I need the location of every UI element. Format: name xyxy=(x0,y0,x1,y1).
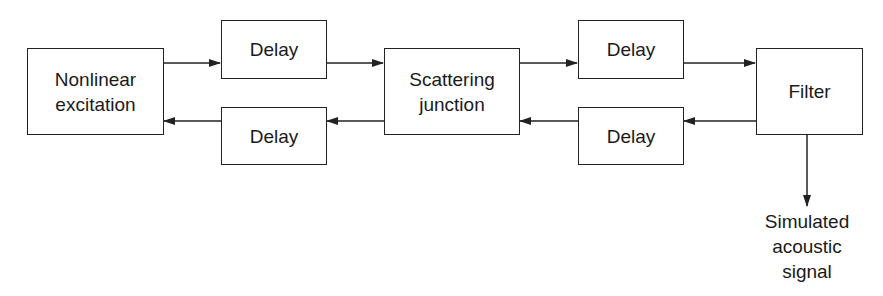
delay-block-bottom-left: Delay xyxy=(221,107,327,165)
block-label: Delay xyxy=(607,124,656,149)
filter-block: Filter xyxy=(756,48,863,135)
block-label: junction xyxy=(409,92,495,117)
output-label-line: acoustic xyxy=(747,234,867,259)
block-label: excitation xyxy=(55,92,136,117)
scattering-junction-block: Scattering junction xyxy=(384,48,520,135)
block-label: Scattering xyxy=(409,67,495,92)
block-label: Delay xyxy=(250,37,299,62)
delay-block-top-left: Delay xyxy=(221,20,327,79)
block-label: Filter xyxy=(788,79,830,104)
block-label: Delay xyxy=(250,124,299,149)
output-label-line: signal xyxy=(747,259,867,284)
delay-block-bottom-right: Delay xyxy=(578,107,684,165)
delay-block-top-right: Delay xyxy=(578,20,684,79)
nonlinear-excitation-block: Nonlinear excitation xyxy=(27,48,164,135)
output-label-line: Simulated xyxy=(747,209,867,234)
block-label: Nonlinear xyxy=(55,67,136,92)
output-signal-label: Simulated acoustic signal xyxy=(747,209,867,284)
block-label: Delay xyxy=(607,37,656,62)
